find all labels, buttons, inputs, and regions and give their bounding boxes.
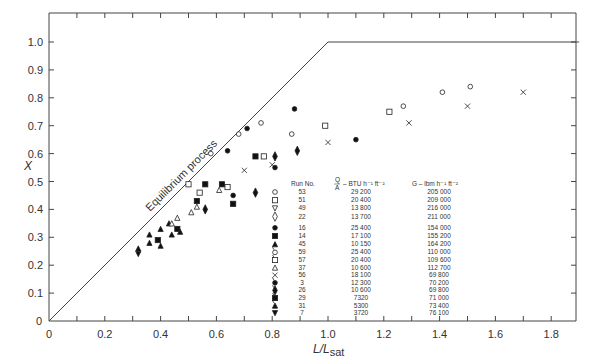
data-point-open-circle	[259, 121, 264, 126]
x-tick-label: 1.2	[376, 328, 391, 340]
x-tick-label: 0.8	[265, 328, 280, 340]
legend-g: 73 400	[429, 302, 449, 309]
legend-qa: 20 400	[351, 196, 371, 203]
legend-run: 31	[298, 302, 306, 309]
data-point-open-triangle	[175, 215, 180, 220]
filled-circle-flag-icon	[273, 278, 278, 285]
legend-row: 1625 400154 000	[273, 224, 451, 231]
data-point-filled-diamond	[253, 188, 258, 197]
data-point-cross	[242, 168, 247, 173]
open-square-icon	[272, 198, 277, 203]
data-point-cross	[521, 90, 526, 95]
x-axis-title-sub: sat	[330, 346, 345, 358]
legend-g: 209 000	[427, 196, 451, 203]
legend-row: 3710 600112 700	[272, 264, 450, 271]
open-triangle-down-icon	[272, 206, 277, 211]
legend-header-run: Run No.	[291, 180, 315, 187]
x-tick-label: 1.4	[432, 328, 447, 340]
legend-qa: 12 300	[351, 279, 371, 286]
legend-qa: 17 100	[351, 232, 371, 239]
legend-run: 56	[298, 271, 306, 278]
data-point-filled-triangle-up	[169, 232, 174, 237]
legend-run: 22	[298, 213, 306, 220]
x-tick-label: 0.2	[97, 328, 112, 340]
legend-header-g: G – lbm h⁻¹ ft⁻²	[412, 180, 459, 187]
data-point-filled-square	[219, 182, 224, 187]
data-point-open-circle	[468, 84, 473, 89]
x-axis-title-main: L/L	[313, 342, 330, 356]
legend-g: 154 000	[427, 224, 451, 231]
plot-frame	[49, 13, 576, 321]
legend-row: 31530073 400	[272, 301, 449, 309]
legend-row: 29732071 000	[272, 293, 449, 301]
filled-triangle-up-icon	[272, 242, 277, 247]
legend-qa: 7320	[354, 294, 369, 301]
legend-g: 70 200	[429, 279, 449, 286]
data-point-cross	[465, 104, 470, 109]
legend-row: 5925 400110 000	[273, 247, 451, 255]
legend-run: 57	[298, 256, 306, 263]
data-point-open-circle	[236, 132, 241, 137]
x-tick-label: 1.0	[320, 328, 335, 340]
legend-run: 26	[298, 286, 306, 293]
legend-run: 45	[298, 240, 306, 247]
legend-run: 59	[298, 248, 306, 255]
y-tick-label: 0.2	[28, 259, 43, 271]
open-circle-flag-icon	[273, 247, 278, 254]
cross-icon	[272, 273, 277, 278]
legend-g: 164 200	[427, 240, 451, 247]
legend-qa: 13 700	[351, 213, 371, 220]
data-point-filled-triangle-up	[147, 240, 152, 245]
equilibrium-annotation: Equilibrium process	[143, 137, 220, 214]
x-tick-label: 0.4	[153, 328, 168, 340]
y-tick-label: 0.1	[28, 287, 43, 299]
data-point-filled-square	[203, 182, 208, 187]
legend-row: 7372076 100	[272, 309, 449, 316]
legend-g: 69 800	[429, 286, 449, 293]
legend-row: 2213 700211 000	[273, 212, 451, 221]
legend-run: 29	[298, 294, 306, 301]
data-point-filled-circle	[245, 126, 250, 131]
data-point-open-square	[261, 154, 266, 159]
legend-row: 5329 200205 000	[273, 188, 451, 195]
legend-run: 7	[300, 309, 304, 316]
y-tick-label: 0.5	[28, 176, 43, 188]
legend-g: 69 800	[429, 271, 449, 278]
data-point-filled-diamond	[203, 205, 208, 214]
data-point-open-circle	[440, 90, 445, 95]
data-point-open-triangle	[217, 187, 222, 192]
legend-qa: 25 400	[351, 224, 371, 231]
filled-triangle-down-icon	[272, 311, 277, 316]
data-point-open-triangle	[194, 204, 199, 209]
x-tick-label: 1.6	[488, 328, 503, 340]
scatter-chart: 00.20.40.60.81.01.21.41.61.8 00.10.20.30…	[0, 0, 591, 364]
y-tick-label: 0	[36, 315, 42, 327]
open-square-flag-icon	[272, 255, 277, 263]
legend-qa: 13 800	[351, 204, 371, 211]
data-point-open-square	[186, 182, 191, 187]
open-circle-icon	[273, 190, 278, 195]
legend-run: 14	[298, 232, 306, 239]
x-tick-label: 1.8	[544, 328, 559, 340]
data-point-open-circle	[289, 132, 294, 137]
y-tick-label: 0.9	[28, 64, 43, 76]
legend-qa: 5300	[354, 302, 369, 309]
x-axis-title: L/Lsat	[313, 342, 344, 358]
data-point-filled-circle	[231, 193, 236, 198]
data-point-filled-triangle-up	[158, 243, 163, 248]
legend-g: 109 600	[427, 256, 451, 263]
data-point-filled-triangle-down	[136, 251, 141, 256]
legend-qa: 3720	[354, 309, 369, 316]
legend-row: 4913 800216 000	[272, 204, 451, 211]
legend-qa: 10 600	[351, 264, 371, 271]
y-tick-label: 0.4	[28, 203, 43, 215]
x-tick-label: 0	[46, 328, 52, 340]
data-point-cross	[406, 120, 411, 125]
legend-run: 53	[298, 188, 306, 195]
x-tick-label: 0.6	[209, 328, 224, 340]
data-point-open-square	[323, 123, 328, 128]
data-point-open-triangle	[189, 210, 194, 215]
data-point-filled-diamond	[295, 146, 300, 155]
legend-g: 155 200	[427, 232, 451, 239]
data-point-filled-circle	[225, 148, 230, 153]
